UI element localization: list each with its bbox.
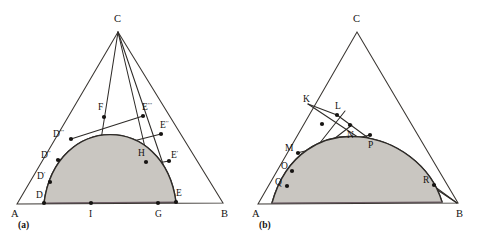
panel-a-point-Epp-dot <box>159 132 163 136</box>
panel-a-point-Dp-dot <box>48 180 52 184</box>
panel-a-point-E-label: E <box>176 188 182 198</box>
panel-a-point-D-dot <box>42 201 46 205</box>
panel-b-point-N-label: N <box>347 130 354 140</box>
panel-b-point-N-dot <box>348 123 352 127</box>
panel-a-point-I-dot <box>89 201 93 205</box>
panel-a-point-Eppp-dot <box>141 114 145 118</box>
panel-a-corner-label-B: B <box>221 208 228 219</box>
panel-b-point-R-label: R <box>423 175 430 185</box>
panel-b-point-M-label: M <box>285 143 294 153</box>
panel-a-point-Dpp-dot <box>56 158 60 162</box>
panel-a-point-D-label: D <box>36 190 43 200</box>
geometry-figure: DD′D′′D′′′FE′′′E′′E′HEIGABC(a)KLNPMOQRAB… <box>0 0 478 241</box>
panel-a-point-F-dot <box>102 115 106 119</box>
panel-b-point-L-label: L <box>335 101 341 111</box>
panel-b-point-P-label: P <box>368 140 373 150</box>
panel-a-point-H-dot <box>144 160 148 164</box>
panel-b-point-Q-dot <box>285 184 289 188</box>
panel-a-point-G-dot <box>156 201 160 205</box>
panel-a-point-F-label: F <box>98 102 103 112</box>
panel-b-point-O-label: O <box>281 161 288 171</box>
panel-b-point-L2-dot <box>320 122 324 126</box>
panel-b-corner-label-A: A <box>252 208 260 219</box>
panel-a-point-E-dot <box>174 200 178 204</box>
panel-a-point-Dppp-prime: ′′′ <box>60 128 65 135</box>
panel-a-corner-label-A: A <box>11 208 19 219</box>
panel-a-corner-label-C: C <box>114 13 121 24</box>
background <box>0 0 478 241</box>
panel-b-corner-label-C: C <box>353 13 360 24</box>
panel-a-point-Eppp-prime: ′′′ <box>148 101 153 108</box>
panel-b-point-Q-label: Q <box>275 177 282 187</box>
panel-b-point-L-dot <box>335 113 339 117</box>
panel-b-point-P-dot <box>368 133 372 137</box>
panel-a-point-I-label: I <box>89 209 92 219</box>
panel-b-caption: (b) <box>259 220 271 231</box>
panel-a-point-Dppp-dot <box>69 137 73 141</box>
panel-a-caption: (a) <box>18 220 29 231</box>
figure-root: DD′D′′D′′′FE′′′E′′E′HEIGABC(a)KLNPMOQRAB… <box>0 0 478 241</box>
panel-b-point-M-dot <box>296 151 300 155</box>
panel-b-point-R-dot <box>432 183 436 187</box>
panel-b-corner-label-B: B <box>456 208 463 219</box>
panel-a-point-G-label: G <box>155 209 162 219</box>
panel-b-point-O-dot <box>290 169 294 173</box>
panel-b-point-K-label: K <box>303 94 310 104</box>
panel-a-point-H-label: H <box>138 148 145 158</box>
